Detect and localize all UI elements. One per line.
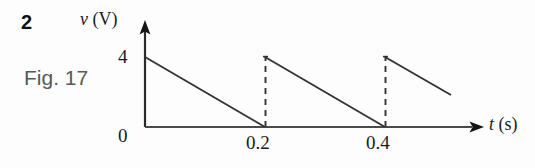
figure-17-sawtooth-waveform: 2 Fig. 17 v (V) t (s) 4 0 0.2 0.4 [0,0,535,168]
waveform-plot [0,0,535,168]
waveform-ramp-3 [385,57,451,95]
waveform-ramp-2 [265,57,385,127]
waveform-ramp-1 [145,57,265,127]
